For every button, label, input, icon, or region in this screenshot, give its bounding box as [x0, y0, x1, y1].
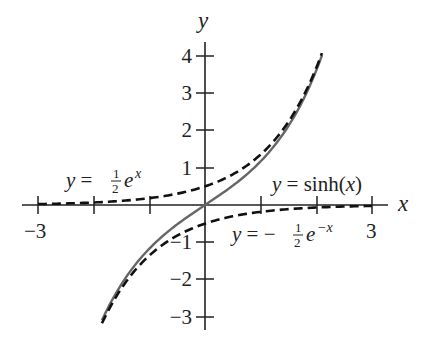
x-tick-label-3: 3: [366, 219, 377, 243]
svg-text:y = −: y = −: [230, 222, 276, 246]
sinh-chart: y x −3 3 4 3 2 1 −1 −2 −3 y = 1 2 e x y …: [0, 0, 430, 350]
y-axis-label: y: [196, 8, 209, 33]
y-tick-label-3: 3: [182, 81, 193, 105]
y-tick-label-neg1: −1: [170, 230, 192, 254]
y-tick-label-neg3: −3: [170, 305, 192, 329]
y-tick-label-4: 4: [182, 44, 193, 68]
svg-text:−x: −x: [317, 220, 333, 235]
svg-text:1: 1: [295, 220, 302, 235]
svg-text:2: 2: [112, 181, 119, 196]
svg-text:e: e: [306, 222, 315, 246]
label-sinh: y = sinh(x): [270, 172, 362, 196]
svg-text:y =: y =: [64, 168, 92, 192]
svg-text:1: 1: [113, 166, 120, 181]
svg-text:e: e: [124, 168, 133, 192]
label-neg-half-exp: y = − 1 2 e −x: [230, 220, 333, 250]
y-tick-label-2: 2: [182, 118, 193, 142]
y-tick-label-neg2: −2: [170, 267, 192, 291]
label-half-exp: y = 1 2 e x: [64, 166, 142, 196]
svg-text:x: x: [134, 166, 142, 181]
svg-text:2: 2: [294, 235, 301, 250]
x-tick-label-neg3: −3: [24, 219, 46, 243]
x-axis-label: x: [397, 191, 409, 216]
svg-text:y = sinh(x): y = sinh(x): [270, 172, 362, 196]
y-tick-label-1: 1: [182, 156, 193, 180]
